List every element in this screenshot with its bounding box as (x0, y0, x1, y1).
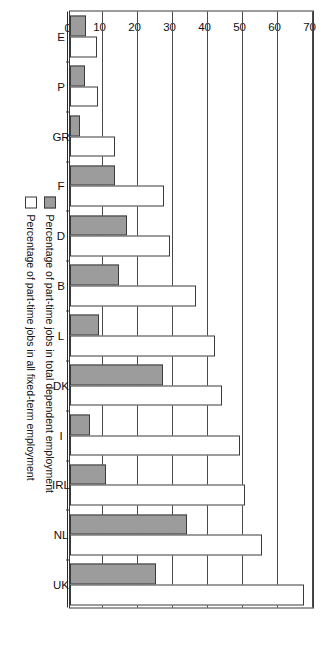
category-tick-I (66, 410, 70, 411)
category-label-NL: NL (55, 527, 67, 542)
category-tick-DK (66, 360, 70, 361)
bar-UK-series1 (70, 563, 156, 584)
legend-item-2: Percentage of part-time jobs in all fixe… (25, 196, 37, 492)
bar-P-series2 (70, 86, 98, 107)
bar-L-series2 (70, 335, 215, 356)
bar-IRL-series1 (70, 464, 106, 485)
category-tick-GR (66, 111, 70, 112)
category-label-DK: DK (55, 377, 67, 393)
gridline-70 (312, 11, 313, 607)
bar-L-series1 (70, 314, 99, 335)
bar-F-series2 (70, 185, 165, 206)
category-label-L: L (55, 332, 67, 338)
category-tick-D (66, 210, 70, 211)
category-label-D: D (55, 231, 67, 239)
category-label-GR: GR (55, 127, 67, 144)
bar-GR-series2 (70, 136, 116, 157)
bar-I-series2 (70, 435, 240, 456)
legend-swatch-white (25, 196, 37, 208)
bar-D-series1 (70, 215, 127, 236)
category-label-I: I (55, 433, 67, 436)
bar-DK-series1 (70, 364, 163, 385)
category-label-P: P (55, 82, 67, 90)
bar-NL-series2 (70, 534, 263, 555)
legend-label-2: Percentage of part-time jobs in all fixe… (25, 214, 37, 480)
bar-I-series1 (70, 414, 90, 435)
legend-swatch-gray (44, 196, 56, 208)
bar-DK-series2 (70, 385, 222, 406)
category-tick-P (66, 61, 70, 62)
gridline-40 (207, 11, 208, 607)
gridline-50 (242, 11, 243, 607)
bar-P-series1 (70, 65, 85, 86)
gridline-60 (277, 11, 278, 607)
bar-B-series2 (70, 285, 196, 306)
bar-B-series1 (70, 264, 119, 285)
category-tick-NL (66, 509, 70, 510)
category-label-B: B (55, 281, 67, 289)
category-label-UK: UK (55, 576, 67, 592)
gridline-0 (67, 11, 68, 607)
chart-canvas: 010203040506070 EPGRFDBLDKIIRLNLUK Perce… (0, 0, 336, 657)
bar-E-series2 (70, 36, 97, 57)
bar-D-series2 (70, 235, 170, 256)
category-label-IRL: IRL (55, 475, 67, 493)
category-label-F: F (55, 182, 67, 189)
bar-E-series1 (70, 15, 86, 36)
category-tick-IRL (66, 460, 70, 461)
category-tick-L (66, 310, 70, 311)
chart-legend: Percentage of part-time jobs in total de… (25, 196, 56, 492)
bar-GR-series1 (70, 115, 81, 136)
category-tick-F (66, 161, 70, 162)
bar-UK-series2 (70, 584, 305, 605)
plot-area: EPGRFDBLDKIIRLNLUK (69, 10, 314, 608)
legend-item-1: Percentage of part-time jobs in total de… (44, 196, 56, 492)
legend-label-1: Percentage of part-time jobs in total de… (44, 214, 56, 492)
category-label-E: E (55, 32, 67, 40)
category-tick-UK (66, 559, 70, 560)
bar-F-series1 (70, 165, 116, 186)
bar-NL-series1 (70, 514, 187, 535)
bar-IRL-series2 (70, 484, 245, 505)
category-tick-B (66, 260, 70, 261)
